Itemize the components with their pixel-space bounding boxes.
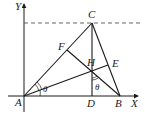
x-axis-label: X [130,97,139,109]
label-f: F [57,40,65,52]
label-a: A [14,96,22,108]
label-c: C [88,8,96,20]
label-e: E [111,57,119,69]
label-d: D [86,97,95,109]
theta-label-a: θ [43,84,48,94]
angle-arc-a [35,84,39,91]
angle-arc-h [92,76,97,78]
geometry-diagram: Y X A B C D E F H θ θ [0,0,145,126]
segment-ac [24,23,92,96]
label-b: B [115,97,122,109]
label-h: H [86,56,96,68]
theta-label-h: θ [95,82,100,92]
y-axis-label: Y [15,0,23,12]
angle-arc-a-2 [37,82,42,90]
